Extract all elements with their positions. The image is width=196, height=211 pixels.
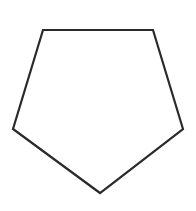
- diagram-canvas: [0, 0, 196, 211]
- pentagon-shape: [13, 30, 183, 193]
- pentagon-diagram: [0, 0, 196, 211]
